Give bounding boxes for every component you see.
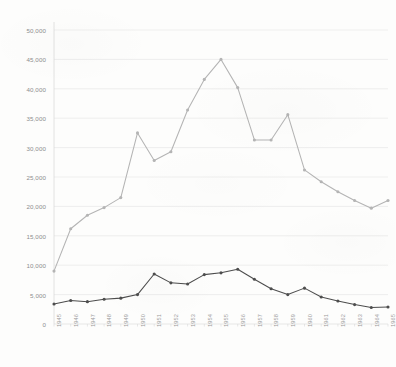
data-point-marker [270,287,273,290]
data-point-marker [119,297,122,300]
data-point-marker [69,299,72,302]
x-axis-tick-label: 1957 [257,314,263,327]
series-line [54,59,388,271]
y-axis-tick-label: 40,000 [12,85,46,92]
x-axis-tick-label: 1953 [190,314,196,327]
data-point-marker [303,168,306,171]
data-point-marker [136,293,139,296]
x-axis-tick-label: 1964 [374,314,380,327]
data-point-marker [169,150,172,153]
data-point-marker [253,138,256,141]
x-axis-tick-label: 1958 [273,314,279,327]
y-axis-tick-label: 0 [12,321,46,328]
data-point-marker [253,278,256,281]
data-point-marker [336,190,339,193]
data-point-marker [353,199,356,202]
x-axis-tick-label: 1960 [307,314,313,327]
data-point-marker [169,281,172,284]
x-axis-tick-label: 1956 [240,314,246,327]
x-axis-tick-label: 1945 [56,314,62,327]
x-axis-tick-label: 1948 [106,314,112,327]
data-point-marker [320,180,323,183]
y-axis-tick-label: 5,000 [12,291,46,298]
data-point-marker [203,273,206,276]
data-point-marker [86,300,89,303]
data-point-marker [236,268,239,271]
data-point-marker [52,302,55,305]
data-point-marker [136,131,139,134]
y-axis-tick-label: 50,000 [12,27,46,34]
y-axis-tick-label: 15,000 [12,232,46,239]
data-point-marker [186,108,189,111]
x-axis-tick-label: 1961 [323,314,329,327]
x-axis-tick-label: 1951 [156,314,162,327]
x-axis-tick-label: 1952 [173,314,179,327]
data-point-marker [103,298,106,301]
x-axis-tick-label: 1962 [340,314,346,327]
data-point-marker [386,199,389,202]
data-point-marker [320,295,323,298]
data-point-marker [370,306,373,309]
y-axis-tick-label: 20,000 [12,203,46,210]
data-point-marker [186,282,189,285]
data-point-marker [69,227,72,230]
data-point-marker [303,287,306,290]
y-axis-tick-label: 10,000 [12,262,46,269]
data-point-marker [386,305,389,308]
x-axis-tick-label: 1950 [140,314,146,327]
y-axis-tick-label: 45,000 [12,56,46,63]
data-point-marker [86,214,89,217]
x-axis-tick-label: 1949 [123,314,129,327]
data-point-marker [52,270,55,273]
y-axis-tick-label: 25,000 [12,174,46,181]
x-axis-tick-label: 1955 [223,314,229,327]
x-axis-tick-label: 1959 [290,314,296,327]
y-axis-tick-label: 35,000 [12,115,46,122]
x-axis-tick-label: 1954 [207,314,213,327]
data-point-marker [270,138,273,141]
data-point-marker [370,207,373,210]
y-axis-tick-label: 30,000 [12,144,46,151]
x-axis-tick-label: 1946 [73,314,79,327]
data-point-marker [353,303,356,306]
data-point-marker [153,272,156,275]
data-point-marker [219,58,222,61]
data-point-marker [103,206,106,209]
data-point-marker [219,271,222,274]
data-point-marker [286,113,289,116]
x-axis-tick-label: 1947 [90,314,96,327]
data-point-marker [153,159,156,162]
x-axis-tick-label: 1965 [390,314,396,327]
x-axis-tick-label: 1963 [357,314,363,327]
data-point-marker [336,300,339,303]
data-point-marker [119,196,122,199]
data-point-marker [236,86,239,89]
data-point-marker [286,293,289,296]
data-point-marker [203,78,206,81]
